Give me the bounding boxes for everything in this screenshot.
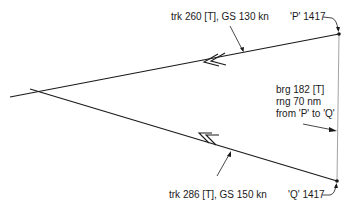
bearing-line-p-to-q [337,34,339,181]
leader-bottom-track-label [217,153,230,176]
arrowhead-icon [240,47,244,52]
double-chevron-arrow-icon [204,53,226,66]
point-q-marker [335,179,339,183]
arrowhead-icon [336,27,340,32]
track-from-q-label: trk 286 [T], GS 150 kn [169,189,267,200]
arrowhead-icon [329,127,337,132]
arrowhead-icon [334,183,338,188]
leader-bearing-label [303,124,333,130]
leader-top-track-label [230,26,243,51]
point-p-label: 'P' 1417 [290,11,326,22]
track-from-p-label: trk 260 [T], GS 130 kn [171,11,269,22]
arrowhead-icon [227,151,231,157]
point-q-label: 'Q' 1417 [288,189,325,200]
point-p-marker [337,32,341,36]
bearing-label-line-1: brg 182 [T] [276,84,324,95]
bearing-label-line-2: rng 70 nm [276,96,321,107]
bearing-label-line-3: from 'P' to 'Q' [276,108,335,119]
